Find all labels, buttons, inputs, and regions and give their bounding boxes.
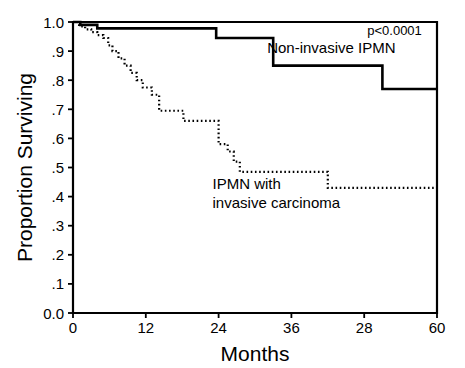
- series-label-2: invasive carcinoma: [213, 194, 341, 211]
- y-tick-label: .6: [51, 130, 64, 147]
- y-tick-label: .8: [51, 72, 64, 89]
- y-tick-label: 0.0: [43, 305, 64, 322]
- y-tick-label: .9: [51, 43, 64, 60]
- x-tick-label: 12: [137, 319, 154, 336]
- y-tick-label: .2: [51, 246, 64, 263]
- y-tick-label: .7: [51, 101, 64, 118]
- x-axis-title: Months: [221, 342, 290, 365]
- x-tick-label: 36: [283, 319, 300, 336]
- x-tick-label: 24: [210, 319, 227, 336]
- annotation-p-value: p<0.0001: [367, 23, 422, 38]
- chart-annotations: p<0.0001: [367, 23, 422, 38]
- x-tick-label: 28: [356, 319, 373, 336]
- y-tick-label: .4: [51, 188, 64, 205]
- y-tick-label: .5: [51, 159, 64, 176]
- y-tick-label: 1.0: [43, 14, 64, 31]
- kaplan-meier-chart: 0.0.1.2.3.4.5.6.7.8.91.0 01224362860 Non…: [0, 0, 465, 368]
- x-tick-label: 0: [69, 319, 77, 336]
- series-label-2: IPMN with: [213, 175, 281, 192]
- series-label-1: Non-invasive IPMN: [267, 39, 395, 56]
- figure-container: 0.0.1.2.3.4.5.6.7.8.91.0 01224362860 Non…: [0, 0, 465, 368]
- y-tick-label: .1: [51, 275, 64, 292]
- y-axis-title: Proportion Surviving: [13, 73, 36, 262]
- y-tick-label: .3: [51, 217, 64, 234]
- x-tick-label: 60: [429, 319, 446, 336]
